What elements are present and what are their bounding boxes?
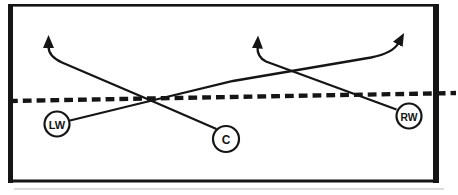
- route-left-wing: [70, 43, 399, 121]
- board-left: [8, 4, 13, 183]
- player-c-label: C: [222, 133, 231, 147]
- player-rw-label: RW: [401, 111, 418, 123]
- player-lw-label: LW: [49, 119, 66, 131]
- rink-diagram-svg: LW C RW: [0, 0, 458, 195]
- hockey-play-diagram: LW C RW: [0, 0, 458, 195]
- player-lw: LW: [45, 112, 70, 137]
- scan-shadow-line: [14, 188, 444, 190]
- player-c: C: [213, 126, 239, 152]
- route-center: [49, 47, 217, 130]
- blue-line-dashed: [9, 93, 456, 101]
- board-top: [8, 4, 439, 7]
- board-bottom: [8, 180, 439, 183]
- player-rw: RW: [397, 104, 422, 129]
